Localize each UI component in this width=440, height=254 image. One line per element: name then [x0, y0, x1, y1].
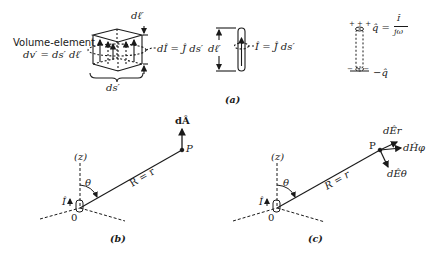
theta-label-b: θ	[85, 178, 91, 188]
volume-element-cube	[88, 26, 156, 82]
charge-fraction-denominator: jω	[394, 28, 403, 36]
panel-b-geometry	[40, 129, 184, 221]
filament-length-label: dℓ′	[208, 44, 221, 54]
z-axis-label-b: (z)	[74, 152, 87, 162]
theta-label-c: θ	[283, 178, 289, 188]
top-charge-label: q̂ =	[372, 23, 390, 33]
origin-label-b: 0	[71, 213, 77, 223]
filament-current-label: Î = Ĵ ds′	[255, 42, 295, 52]
point-p-label-b: P	[186, 144, 193, 154]
field-Er-label: dÊr	[383, 126, 401, 136]
z-axis-label-c: (z)	[271, 152, 284, 162]
bottom-charge-label: −q̂	[373, 68, 388, 78]
bottom-minus-signs: − − −	[347, 66, 369, 73]
caption-a: (a)	[225, 95, 240, 105]
field-Etheta-label: dÊθ	[387, 169, 407, 179]
current-label-c: Î	[259, 197, 263, 207]
current-filament	[216, 28, 254, 71]
charge-fraction-numerator: Î	[397, 15, 400, 23]
current-element-label: dÎ = Ĵ ds′	[157, 44, 203, 54]
vector-dA-label: dÂ	[175, 116, 190, 126]
caption-c: (c)	[308, 234, 323, 244]
volume-element-formula: dv′ = ds′ dℓ′	[23, 50, 82, 60]
volume-element-label: Volume-element	[13, 38, 95, 48]
top-plus-signs: + + +	[349, 21, 371, 28]
height-dl-label: dℓ′	[131, 11, 144, 21]
point-p-label-c: P	[369, 141, 376, 151]
origin-label-c: 0	[268, 213, 274, 223]
current-label-b: Î	[62, 197, 66, 207]
panel-c-geometry	[233, 142, 401, 222]
caption-b: (b)	[110, 234, 126, 244]
width-ds-label: ds′	[106, 83, 120, 93]
field-Hphi-label: dĤφ	[403, 143, 425, 153]
